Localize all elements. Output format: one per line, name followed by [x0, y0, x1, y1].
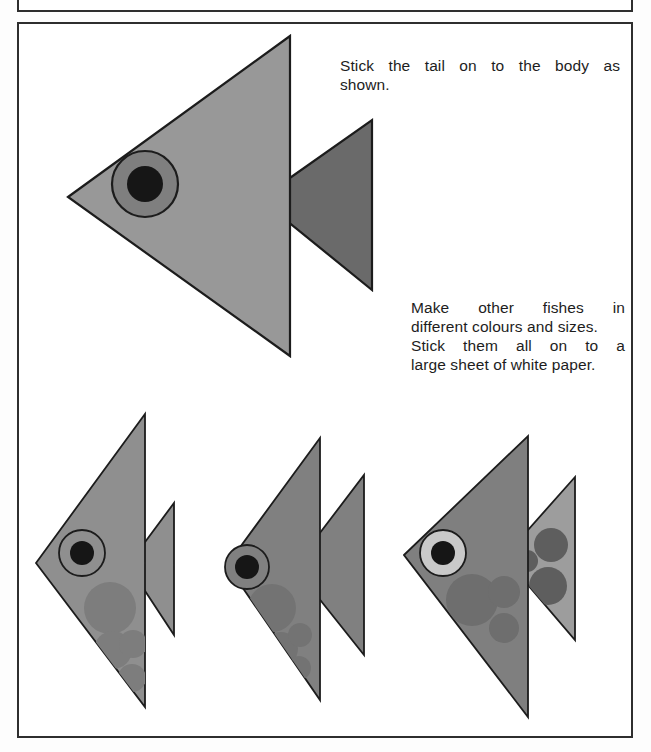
instruction-page: Stick the tail on to the body as shown. … [0, 0, 651, 752]
caption-2-line-4: large sheet of white paper. [411, 355, 625, 374]
caption-2-line-2: different colours and sizes. [411, 317, 625, 336]
instruction-caption-1: Stick the tail on to the body as shown. [340, 56, 620, 94]
caption-2-line-1: Make other fishes in [411, 298, 625, 317]
instruction-caption-2: Make other fishes in different colours a… [411, 298, 625, 374]
main-panel-frame [17, 22, 633, 738]
caption-1-line-1: Stick the tail on to the body as [340, 56, 620, 75]
caption-1-line-2: shown. [340, 75, 620, 94]
caption-2-line-3: Stick them all on to a [411, 336, 625, 355]
upper-panel-frame [17, 0, 633, 12]
